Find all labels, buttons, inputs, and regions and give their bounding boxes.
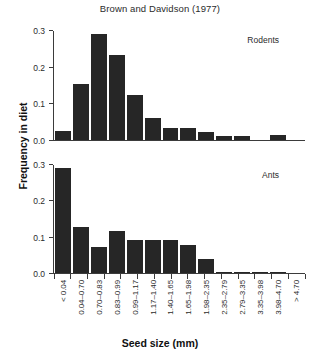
bar-slot xyxy=(269,31,287,140)
x-tick-label-slot: 1.65–1.98 xyxy=(179,280,197,336)
bar xyxy=(162,128,180,140)
x-tick-label: 3.98–4.70 xyxy=(274,280,283,315)
x-axis-title: Seed size (mm) xyxy=(0,337,320,349)
x-tick-label-slot: 2.79–3.35 xyxy=(233,280,251,336)
x-tick-label: 3.35–3.98 xyxy=(256,280,265,315)
bar-slot xyxy=(215,165,233,273)
bar xyxy=(72,227,90,273)
x-tick-label: < 0.04 xyxy=(58,280,67,302)
bar xyxy=(126,240,144,273)
bar-slot xyxy=(197,165,215,273)
bar xyxy=(126,95,144,140)
x-tick-label: 2.79–3.35 xyxy=(238,280,247,315)
x-tick-label-slot: 0.83–0.99 xyxy=(108,280,126,336)
bars-ants xyxy=(54,165,305,273)
bar-slot xyxy=(233,165,251,273)
bar-slot xyxy=(162,165,180,273)
x-tick xyxy=(138,274,155,279)
x-tick-label: 1.17–1.40 xyxy=(148,280,157,315)
x-tick xyxy=(121,274,138,279)
x-tick xyxy=(255,274,272,279)
x-tick-label-slot: < 0.04 xyxy=(54,280,72,336)
x-tick-label-slot: 1.98–2.35 xyxy=(197,280,215,336)
bar-slot xyxy=(72,31,90,140)
x-tick-label-slot: 0.04–0.70 xyxy=(72,280,90,336)
bar-slot xyxy=(72,165,90,273)
bar xyxy=(144,118,162,140)
panel-ants: Ants 0.00.10.20.3 xyxy=(53,165,305,274)
bar xyxy=(215,272,233,273)
y-tick-label: 0.0 xyxy=(33,136,45,146)
bar-slot xyxy=(126,31,144,140)
y-tick xyxy=(49,164,53,165)
bar-slot xyxy=(251,165,269,273)
x-tick xyxy=(205,274,222,279)
bar xyxy=(197,259,215,273)
bar xyxy=(108,231,126,273)
x-tick-label-slot: 3.98–4.70 xyxy=(269,280,287,336)
bar-slot xyxy=(215,31,233,140)
x-tick-label: 0.99–1.17 xyxy=(130,280,139,315)
y-tick xyxy=(49,140,53,141)
y-tick-label: 0.3 xyxy=(33,26,45,36)
x-tick xyxy=(272,274,289,279)
y-tick xyxy=(49,103,53,104)
x-tick xyxy=(54,274,71,279)
x-tick-label-slot: 3.35–3.98 xyxy=(251,280,269,336)
y-tick-label: 0.3 xyxy=(33,160,45,170)
bar xyxy=(108,55,126,140)
bar xyxy=(215,136,233,140)
x-tick-label: 0.04–0.70 xyxy=(76,280,85,315)
y-tick xyxy=(49,67,53,68)
x-axis-ticks xyxy=(54,274,305,279)
bar-slot xyxy=(108,31,126,140)
y-tick xyxy=(49,30,53,31)
x-tick-label-slot: > 4.70 xyxy=(287,280,305,336)
bar-slot xyxy=(90,165,108,273)
bar-slot xyxy=(179,165,197,273)
bar xyxy=(54,168,72,273)
x-tick-label-slot: 0.70–0.83 xyxy=(90,280,108,336)
x-tick-label: 2.35–2.79 xyxy=(220,280,229,315)
y-tick-label: 0.1 xyxy=(33,233,45,243)
x-tick-label: 1.40–1.65 xyxy=(166,280,175,315)
bar xyxy=(90,34,108,140)
y-tick-label: 0.2 xyxy=(33,63,45,73)
bar-slot xyxy=(90,31,108,140)
bar-slot xyxy=(197,31,215,140)
bar xyxy=(54,131,72,140)
x-tick xyxy=(71,274,88,279)
bars-rodents xyxy=(54,31,305,140)
bar xyxy=(233,136,251,140)
x-tick xyxy=(87,274,104,279)
y-tick xyxy=(49,237,53,238)
x-axis-line-rodents xyxy=(53,140,305,141)
x-tick-label-slot: 1.17–1.40 xyxy=(144,280,162,336)
x-tick xyxy=(154,274,171,279)
bar-slot xyxy=(179,31,197,140)
x-tick xyxy=(288,274,305,279)
x-tick xyxy=(188,274,205,279)
y-axis-title: Frequency in diet xyxy=(17,76,29,216)
y-tick-label: 0.0 xyxy=(33,269,45,279)
bar-slot xyxy=(54,165,72,273)
bar-slot xyxy=(108,165,126,273)
bar-slot xyxy=(126,165,144,273)
bar xyxy=(144,240,162,273)
bar-slot xyxy=(162,31,180,140)
bar xyxy=(179,128,197,140)
bar xyxy=(179,245,197,273)
bar-slot xyxy=(269,165,287,273)
y-tick-label: 0.2 xyxy=(33,196,45,206)
y-tick xyxy=(49,200,53,201)
bar-slot xyxy=(144,165,162,273)
bar-slot xyxy=(233,31,251,140)
x-tick-label: 0.83–0.99 xyxy=(112,280,121,315)
x-tick-label-slot: 1.40–1.65 xyxy=(162,280,180,336)
bar-slot xyxy=(144,31,162,140)
bar xyxy=(269,272,287,273)
bar xyxy=(162,240,180,273)
x-tick xyxy=(104,274,121,279)
bar xyxy=(233,272,251,273)
bar xyxy=(269,135,287,140)
